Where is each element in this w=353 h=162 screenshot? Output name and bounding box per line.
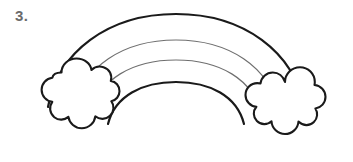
cloud-left xyxy=(42,59,120,129)
cloud-right xyxy=(246,67,326,134)
cloud-right-outline xyxy=(246,67,326,134)
cloud-left-outline xyxy=(42,59,120,129)
arc-outer-bottom-line xyxy=(108,82,244,124)
worksheet-item: 3. xyxy=(0,0,353,162)
rainbow-with-clouds-illustration xyxy=(0,0,353,162)
